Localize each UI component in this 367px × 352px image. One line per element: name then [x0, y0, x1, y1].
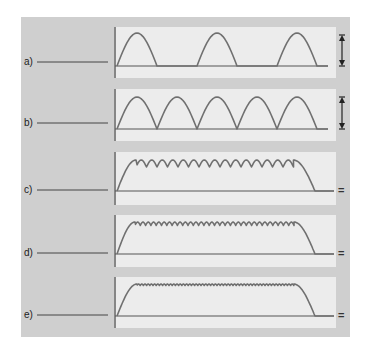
plot-panel-a: [116, 27, 336, 78]
row-label-c: c): [24, 184, 32, 195]
rectifier-waveform-diagram: a) b) c): [0, 0, 367, 352]
row-label-a: a): [24, 56, 33, 67]
equals-sign: =: [338, 309, 344, 321]
row-label-e: e): [24, 309, 33, 320]
row-label-d: d): [24, 247, 33, 258]
equals-sign: =: [338, 247, 344, 259]
equals-sign: =: [338, 184, 344, 196]
plot-panel-b: [116, 89, 336, 141]
row-label-b: b): [24, 117, 33, 128]
